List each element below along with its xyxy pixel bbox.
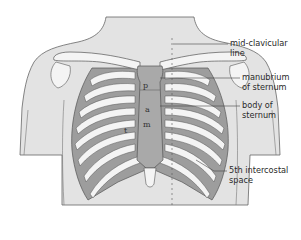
label-line: line [230,49,288,59]
label-5th-intercostal-space: 5th intercostal space [229,166,288,185]
xiphoid-process [144,168,156,187]
sternum [137,66,163,168]
sternum-letter-a: a [145,105,150,114]
label-line: space [229,176,288,186]
sternum-letter-m: m [143,120,151,129]
label-line: sternum [242,111,276,121]
label-manubrium: manubrium of sternum [242,73,289,92]
label-mid-clavicular-line: mid-clavicular line [230,39,288,58]
sternum-letter-p: p [143,81,148,90]
label-line: of sternum [242,83,289,93]
label-body-of-sternum: body of sternum [242,101,276,120]
